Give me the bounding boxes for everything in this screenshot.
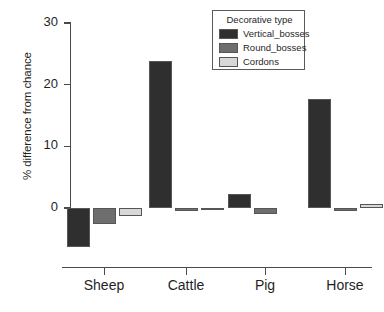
x-tick-mark [345,267,346,275]
x-axis-line [62,267,372,268]
bars-layer [0,0,384,312]
legend-swatch-icon [219,57,238,67]
bar-cattle-round_bosses [175,208,198,211]
legend-title: Decorative type [213,14,306,25]
legend-item-cordons[interactable]: Cordons [219,56,279,67]
legend-item-round-bosses[interactable]: Round_bosses [219,42,306,53]
bar-chart: % difference from chance 0102030 SheepCa… [0,0,384,312]
x-tick-mark [265,267,266,275]
bar-sheep-round_bosses [93,208,116,224]
bar-pig-vertical_bosses [228,194,251,208]
x-tick-label: Horse [300,277,384,293]
legend-item-label: Cordons [243,56,279,67]
bar-cattle-cordons [201,208,224,210]
x-tick-mark [104,267,105,275]
bar-horse-vertical_bosses [308,99,331,208]
legend-item-label: Round_bosses [243,42,306,53]
x-tick-label: Cattle [141,277,231,293]
legend-swatch-icon [219,43,238,53]
legend: Decorative type Vertical_bosses Round_bo… [212,10,305,70]
legend-swatch-icon [219,29,238,39]
bar-pig-round_bosses [254,208,277,214]
x-tick-label: Pig [220,277,310,293]
legend-item-vertical-bosses[interactable]: Vertical_bosses [219,28,310,39]
x-tick-mark [186,267,187,275]
legend-item-label: Vertical_bosses [243,28,310,39]
bar-sheep-vertical_bosses [67,208,90,247]
x-tick-label: Sheep [59,277,149,293]
bar-sheep-cordons [119,208,142,216]
bar-horse-round_bosses [334,208,357,211]
bar-cattle-vertical_bosses [149,61,172,208]
bar-horse-cordons [360,204,383,208]
